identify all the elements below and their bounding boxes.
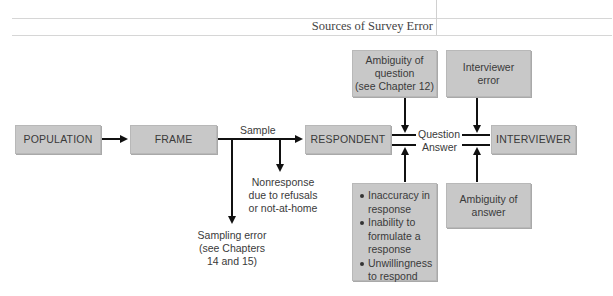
population-box: POPULATION <box>15 125 101 154</box>
list-item: Inability to formulate a response <box>359 216 432 257</box>
item-line: response <box>368 203 411 215</box>
frame-box: FRAME <box>130 125 217 154</box>
respondent-errors-box: Inaccuracy in response Inability to form… <box>352 183 437 281</box>
ambiguity-answer-line-1: Ambiguity of <box>460 193 518 206</box>
answer-label: Answer <box>422 141 457 154</box>
sample-label: Sample <box>240 124 276 137</box>
ambiguity-answer-line-2: answer <box>472 206 506 219</box>
interviewer-label: INTERVIEWER <box>496 133 571 146</box>
interviewer-error-box: Interviewer error <box>446 50 531 97</box>
sampling-error-label: Sampling error (see Chapters 14 and 15) <box>194 229 270 268</box>
nonresponse-line-1: Nonresponse <box>246 176 320 189</box>
ambiguity-of-answer-box: Ambiguity of answer <box>446 183 531 228</box>
nonresponse-line-3: or not-at-home <box>246 202 320 215</box>
question-label: Question <box>418 128 460 141</box>
item-line: response <box>368 243 411 255</box>
sampling-error-line-2: (see Chapters <box>194 242 270 255</box>
population-label: POPULATION <box>24 133 93 146</box>
sampling-error-line-3: 14 and 15) <box>194 255 270 268</box>
item-line: to respond <box>368 270 418 282</box>
ambiguity-question-line-2: question <box>375 67 415 80</box>
list-item: Unwillingness to respond <box>359 257 432 284</box>
item-line: Inability to <box>368 216 415 228</box>
item-line: Inaccuracy in <box>368 189 430 201</box>
respondent-box: RESPONDENT <box>305 125 391 154</box>
interviewer-error-line-1: Interviewer <box>463 61 514 74</box>
sampling-error-line-1: Sampling error <box>194 229 270 242</box>
ambiguity-of-question-box: Ambiguity of question (see Chapter 12) <box>352 50 437 97</box>
interviewer-error-line-2: error <box>477 74 499 87</box>
respondent-errors-list: Inaccuracy in response Inability to form… <box>359 189 432 284</box>
list-item: Inaccuracy in response <box>359 189 432 216</box>
nonresponse-line-2: due to refusals <box>246 189 320 202</box>
interviewer-box: INTERVIEWER <box>491 125 576 154</box>
nonresponse-label: Nonresponse due to refusals or not-at-ho… <box>246 176 320 215</box>
item-line: formulate a <box>368 230 421 242</box>
respondent-label: RESPONDENT <box>311 133 386 146</box>
ambiguity-question-line-3: (see Chapter 12) <box>355 80 434 93</box>
item-line: Unwillingness <box>368 257 432 269</box>
ambiguity-question-line-1: Ambiguity of <box>366 54 424 67</box>
frame-label: FRAME <box>155 133 193 146</box>
